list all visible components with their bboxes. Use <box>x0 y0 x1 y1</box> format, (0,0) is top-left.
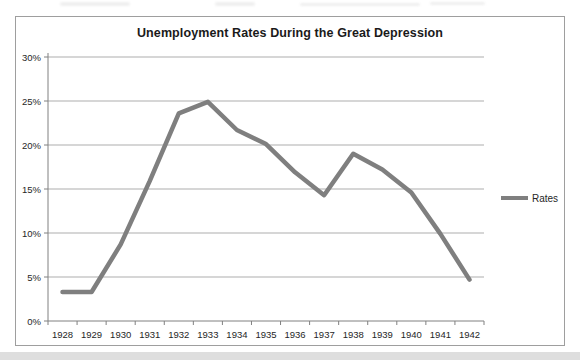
x-tick-label: 1932 <box>168 329 189 340</box>
x-tick-label: 1931 <box>139 329 160 340</box>
x-tick-label: 1930 <box>110 329 131 340</box>
x-tick-label: 1928 <box>52 329 73 340</box>
scan-artifact-strip <box>0 352 580 360</box>
y-tick-label: 10% <box>22 228 42 239</box>
y-tick-label: 30% <box>22 52 42 63</box>
x-tick-label: 1940 <box>401 329 422 340</box>
data-line-rates <box>63 102 470 292</box>
y-tick-label: 20% <box>22 140 42 151</box>
y-tick-label: 5% <box>27 272 41 283</box>
y-tick-label: 15% <box>22 184 42 195</box>
x-tick-label: 1936 <box>284 329 305 340</box>
chart-svg: 0%5%10%15%20%25%30%192819291930193119321… <box>0 0 580 364</box>
x-tick-label: 1938 <box>343 329 364 340</box>
page: Unemployment Rates During the Great Depr… <box>0 0 580 364</box>
x-tick-label: 1934 <box>226 329 247 340</box>
x-tick-label: 1935 <box>255 329 276 340</box>
x-tick-label: 1929 <box>81 329 102 340</box>
x-tick-label: 1941 <box>430 329 451 340</box>
x-tick-label: 1942 <box>459 329 480 340</box>
x-tick-label: 1933 <box>197 329 218 340</box>
x-tick-label: 1937 <box>314 329 335 340</box>
legend-line-sample <box>501 196 528 200</box>
x-tick-label: 1939 <box>372 329 393 340</box>
legend-label: Rates <box>532 193 558 204</box>
legend: Rates <box>501 191 558 205</box>
y-tick-label: 25% <box>22 96 42 107</box>
y-tick-label: 0% <box>27 316 41 327</box>
